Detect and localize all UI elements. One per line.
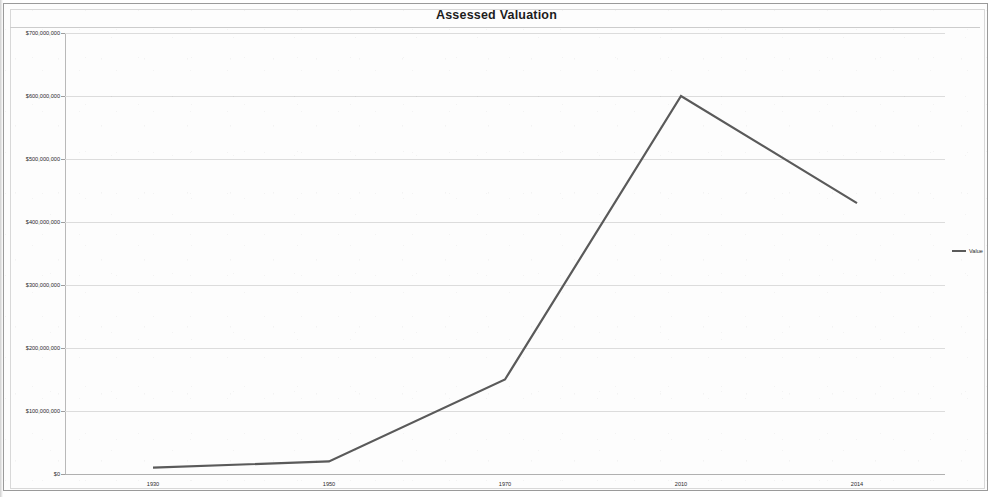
y-axis-tick-label: $400,000,000 [26, 219, 60, 225]
x-axis-tick-label: 1950 [323, 481, 335, 487]
chart-legend: Value [952, 248, 983, 254]
x-axis-line [65, 474, 945, 475]
x-axis-tick-label: 1970 [499, 481, 511, 487]
page-title: Assessed Valuation [0, 8, 993, 22]
y-axis-tick-label: $300,000,000 [26, 282, 60, 288]
x-axis-tick-label: 2014 [851, 481, 863, 487]
y-axis-tick-label: $200,000,000 [26, 345, 60, 351]
series-value-line [65, 33, 945, 474]
y-axis-tick-mark [61, 474, 65, 475]
legend-swatch-value [952, 250, 966, 252]
y-axis-tick-label: $500,000,000 [26, 156, 60, 162]
legend-label-value: Value [969, 248, 983, 254]
x-axis-tick-label: 2010 [675, 481, 687, 487]
chart-page: Assessed Valuation $0$100,000,000$200,00… [0, 0, 993, 497]
y-axis-tick-label: $100,000,000 [26, 408, 60, 414]
y-axis-tick-label: $700,000,000 [26, 30, 60, 36]
y-axis-tick-label: $600,000,000 [26, 93, 60, 99]
x-axis-tick-label: 1930 [147, 481, 159, 487]
title-divider [10, 27, 980, 28]
y-axis-tick-label: $0 [54, 471, 60, 477]
